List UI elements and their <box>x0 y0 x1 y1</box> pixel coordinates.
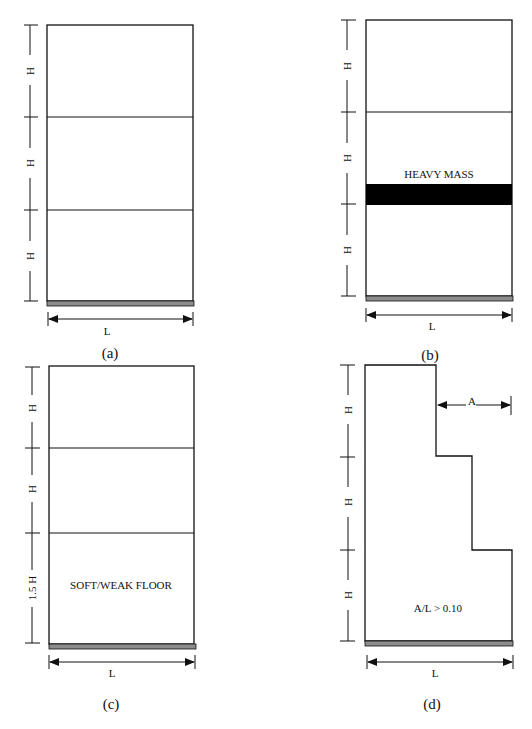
width-label: L <box>109 667 116 679</box>
story-height-label: H <box>24 252 36 260</box>
building-outline <box>366 20 512 296</box>
story-height-label: H <box>24 67 36 75</box>
width-dimension <box>49 655 195 669</box>
ground-base <box>49 644 196 649</box>
story-height-label: H <box>342 591 354 599</box>
panel-b: HEAVY MASS H H H L (b) <box>341 20 513 364</box>
story-height-label: H <box>24 159 36 167</box>
heavy-mass-band <box>366 184 512 205</box>
panel-caption: (d) <box>423 696 441 713</box>
ground-base <box>366 296 513 301</box>
width-dimension <box>366 308 512 322</box>
story-height-label: H <box>341 246 353 254</box>
ground-base <box>47 301 194 306</box>
ratio-label: A/L > 0.10 <box>414 602 463 614</box>
panel-d: A A/L > 0.10 H H H L (d) <box>340 365 513 713</box>
panel-a: H H H L (a) <box>24 25 194 362</box>
story-height-label: 1.5 H <box>26 576 38 601</box>
story-height-label: H <box>341 62 353 70</box>
building-irregularity-diagram: H H H L (a) HEAVY MASS H H H <box>0 0 532 729</box>
width-label: L <box>429 320 436 332</box>
story-height-label: H <box>342 406 354 414</box>
setback-building-outline <box>365 365 512 641</box>
story-height-label: H <box>26 404 38 412</box>
panel-caption: (c) <box>103 696 120 713</box>
width-label: L <box>104 325 111 337</box>
building-outline <box>47 25 193 301</box>
width-label: L <box>432 667 439 679</box>
width-dimension <box>48 312 193 326</box>
panel-caption: (b) <box>421 347 439 364</box>
story-height-label: H <box>342 498 354 506</box>
building-outline <box>49 366 194 644</box>
panel-c: SOFT/WEAK FLOOR H H 1.5 H L (c) <box>25 366 196 713</box>
heavy-mass-label: HEAVY MASS <box>404 168 473 180</box>
soft-floor-label: SOFT/WEAK FLOOR <box>70 579 172 591</box>
story-height-label: H <box>26 485 38 493</box>
setback-label: A <box>468 395 476 407</box>
width-dimension <box>367 655 513 669</box>
panel-caption: (a) <box>102 345 119 362</box>
ground-base <box>365 641 513 646</box>
story-height-label: H <box>341 154 353 162</box>
